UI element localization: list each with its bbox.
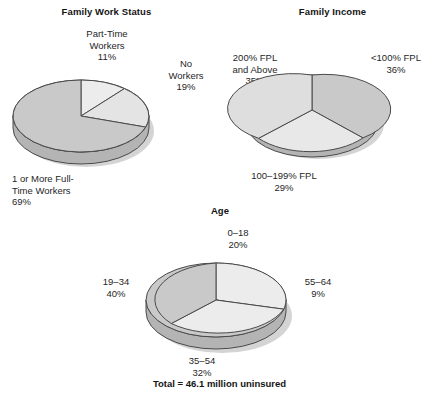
pie-label-full-time-workers: 1 or More Full- Time Workers 69% — [12, 173, 132, 208]
footer-total-uninsured: Total = 46.1 million uninsured — [0, 378, 439, 389]
pie-label-age-19-34: 19–34 40% — [88, 276, 144, 299]
pie-chart-family-income — [240, 52, 400, 172]
pie-chart-family-work-status — [10, 55, 170, 175]
pie-label-100-199-fpl: 100–199% FPL 29% — [228, 170, 340, 193]
chart-title-family-income: Family Income — [226, 6, 439, 17]
chart-title-family-work-status: Family Work Status — [0, 6, 213, 17]
pie-chart-age — [138, 240, 308, 360]
chart-title-age: Age — [120, 205, 320, 216]
